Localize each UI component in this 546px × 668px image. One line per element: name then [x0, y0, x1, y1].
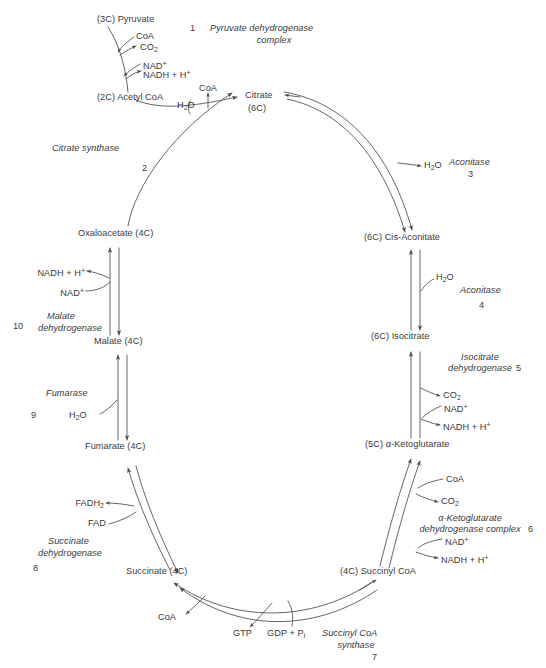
label-nadh-isocitrate: NADH + H+ [443, 419, 491, 433]
label-coa-ketoglutarate: CoA [446, 474, 464, 486]
label-isocitrate: (6C) Isocitrate [371, 331, 429, 343]
enzyme-8-line2: dehydrogenase [38, 548, 102, 560]
enzyme-10-line2: dehydrogenase [38, 323, 102, 335]
step-number-6: 6 [528, 524, 533, 534]
label-co2-ketoglutarate: CO2 [441, 496, 459, 509]
label-fumarate: Fumarate (4C) [85, 441, 145, 453]
enzyme-2-line1: Citrate synthase [52, 143, 119, 155]
label-nadh-malate: NADH + H+ [37, 265, 85, 279]
label-gtp: GTP [233, 628, 252, 640]
step-number-3: 3 [468, 169, 473, 179]
label-h2o-fumarase: H2O [69, 410, 87, 423]
enzyme-6-line1: α-Ketoglutarate [438, 513, 502, 525]
citric-acid-cycle-diagram: (3C) Pyruvate (2C) Acetyl CoA Citrate (6… [0, 0, 546, 668]
enzyme-3-line1: Aconitase [449, 157, 490, 169]
label-citrate-carbons: (6C) [248, 103, 266, 115]
enzyme-9-line1: Fumarase [46, 388, 88, 400]
label-alpha-ketoglutarate: (5C) α-Ketoglutarate [365, 439, 449, 451]
ketoglutarate-succinylcoa-arrow [380, 459, 411, 566]
step-number-5: 5 [516, 363, 521, 373]
enzyme-1-line2: complex [257, 35, 292, 47]
enzyme-4-line1: Aconitase [460, 285, 501, 297]
label-pyruvate: (3C) Pyruvate [97, 14, 154, 26]
step-number-10: 10 [13, 321, 23, 331]
label-malate: Malate (4C) [94, 336, 143, 348]
label-co2-pyruvate: CO2 [140, 42, 158, 55]
label-oxaloacetate: Oxaloacetate (4C) [78, 228, 153, 240]
step-number-2: 2 [142, 163, 147, 173]
enzyme-7-line1: Succinyl CoA [322, 628, 377, 640]
enzyme-5-line2: dehydrogenase [448, 363, 512, 375]
step-number-8: 8 [33, 563, 38, 573]
step-number-7: 7 [372, 652, 377, 662]
label-h2o-aconitase-4: H2O [436, 272, 454, 285]
label-gdp-pi: GDP + Pi [267, 628, 305, 641]
label-succinate: Succinate (4C) [126, 566, 187, 578]
step-number-1: 1 [190, 23, 195, 33]
pyruvate-to-acetylcoa-arrow [108, 27, 128, 92]
enzyme-6-line2: dehydrogenase complex [419, 524, 520, 536]
enzyme-1-line1: Pyruvate dehydrogenase [210, 23, 313, 35]
label-h2o-aconitase-3: H2O [424, 160, 442, 173]
label-citrate: Citrate [245, 90, 272, 102]
label-h2o-citrate-synthase: H2O [177, 100, 195, 113]
label-succinyl-coa: (4C) Succinyl CoA [340, 566, 416, 578]
succinate-to-fumarate-arrow [128, 468, 170, 570]
label-cis-aconitate: (6C) Cis-Aconitate [364, 232, 440, 244]
enzyme-8-line1: Succinate [48, 536, 89, 548]
enzyme-7-line2: synthase [337, 640, 374, 652]
enzyme-5-line1: Isocitrate [461, 352, 499, 364]
step-number-9: 9 [31, 410, 36, 420]
label-fad: FAD [88, 518, 106, 530]
citrate-to-cisaconitate-arrow [284, 92, 412, 230]
label-nad-isocitrate: NAD+ [444, 401, 468, 415]
label-fadh2: FADH2 [75, 498, 104, 511]
label-coa-citrate-synthase: CoA [199, 83, 217, 95]
step-number-4: 4 [479, 300, 484, 310]
label-nad-malate: NAD+ [60, 285, 84, 299]
label-coa-succinate: CoA [158, 612, 176, 624]
label-acetyl-coa: (2C) Acetyl CoA [97, 92, 163, 104]
enzyme-10-line1: Malate [47, 311, 75, 323]
label-nad-ketoglutarate: NAD+ [445, 534, 469, 548]
label-coa-pyruvate: CoA [136, 31, 154, 43]
label-nadh-ketoglutarate: NADH + H+ [441, 552, 489, 566]
label-nadh-pyruvate: NADH + H+ [143, 67, 191, 81]
